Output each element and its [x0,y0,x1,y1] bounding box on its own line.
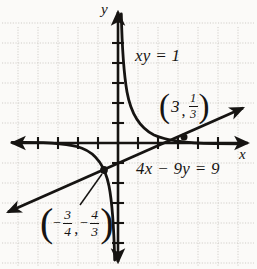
point-a-comma: , [181,102,188,122]
point-label-upper-right: ( 3 , 1 3 ) [159,92,210,122]
point-b-comma: , [73,220,80,240]
graph-canvas [0,0,257,269]
label-hyperbola-equation: xy = 1 [135,47,180,64]
point-b-x: − 3 4 [53,208,73,240]
axis-label-x: x [239,147,246,162]
point-dot-lower-left [100,166,108,174]
axis-label-y: y [101,2,108,17]
point-b-x-fraction: 3 4 [62,208,73,240]
figure-background [0,0,257,269]
point-a-y-fraction: 1 3 [188,92,199,122]
paren-close: ) [199,93,210,120]
paren-open: ( [159,93,170,120]
label-line-equation: 4x − 9y = 9 [136,160,220,177]
point-b-y-fraction: 4 3 [89,208,100,240]
paren-close: ) [100,207,113,240]
point-a-x: 3 [170,97,181,117]
point-b-y: − 4 3 [80,208,100,240]
paren-open: ( [40,207,53,240]
point-label-lower-left: ( − 3 4 , − 4 3 ) [40,207,113,240]
point-dot-upper-right [181,134,188,141]
